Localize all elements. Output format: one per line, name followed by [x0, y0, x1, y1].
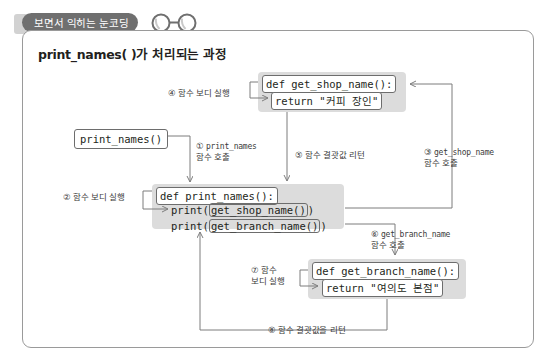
step-label-7: ⑦ 함수 보디 실행 [251, 265, 285, 287]
step-label-6: ⑥ get_branch_name 함수 호출 [371, 229, 450, 251]
step-label-8: ⑧ 함수 결괏값을 리턴 [268, 325, 345, 336]
step-label-4: ④ 함수 보디 실행 [168, 88, 230, 99]
code-print-call-2-suffix: ) [320, 220, 326, 232]
step-3-text: 함수 호출 [424, 158, 458, 168]
step-label-1: ① print_names 함수 호출 [196, 141, 257, 163]
step-6-marker: ⑥ [371, 229, 378, 239]
code-print-call-2-inner: get_branch_name() [209, 219, 320, 233]
code-get-shop-name-return: return "커피 장인" [271, 92, 382, 110]
step-7-text-line1: 함수 [261, 265, 277, 275]
step-6-text: 함수 호출 [371, 240, 405, 250]
code-get-branch-name-return-text: return "여의도 본점" [326, 282, 439, 294]
step-3-mono: get_shop_name [434, 148, 494, 157]
code-print-call-2-prefix: print( [171, 220, 209, 232]
step-label-5: ⑤ 함수 결괏값 리턴 [295, 150, 365, 161]
diagram-page: 보면서 익히는 눈코딩 print_names( )가 처리되는 과정 [0, 0, 556, 363]
code-print-call-1-inner: get_shop_name() [209, 203, 308, 217]
code-get-branch-name-return: return "여의도 본점" [322, 279, 443, 297]
step-4-text: 함수 보디 실행 [178, 88, 230, 98]
step-1-mono: print_names [206, 142, 257, 151]
step-6-mono: get_branch_name [381, 230, 450, 239]
step-5-text: 함수 결괏값 리턴 [305, 150, 365, 160]
code-print-names-def-text: def print_names(): [160, 190, 274, 202]
code-get-branch-name-def-text: def get_branch_name(): [316, 265, 455, 277]
step-8-marker: ⑧ [268, 325, 275, 335]
step-2-text: 함수 보디 실행 [73, 192, 125, 202]
code-get-shop-name-def: def get_shop_name(): [262, 75, 396, 93]
step-8-text: 함수 결괏값을 리턴 [278, 325, 345, 335]
step-label-3: ③ get_shop_name 함수 호출 [424, 147, 494, 169]
step-5-marker: ⑤ [295, 150, 302, 160]
code-print-call-1-suffix: ) [308, 204, 314, 216]
code-print-names-call-2: print(get_branch_name()) [171, 219, 327, 233]
step-1-text: 함수 호출 [196, 152, 230, 162]
step-1-marker: ① [196, 141, 203, 151]
step-7-text-line2: 보디 실행 [251, 276, 285, 286]
step-2-marker: ② [63, 192, 70, 202]
code-entry-call-text: print_names() [80, 133, 162, 145]
step-3-marker: ③ [424, 147, 431, 157]
code-print-call-1-prefix: print( [171, 204, 209, 216]
code-get-shop-name-return-text: return "커피 장인" [275, 95, 378, 107]
page-title: print_names( )가 처리되는 과정 [38, 44, 226, 63]
code-print-names-call-1: print(get_shop_name()) [171, 203, 314, 217]
code-get-branch-name-def: def get_branch_name(): [312, 262, 459, 280]
section-tab-label: 보면서 익히는 눈코딩 [34, 15, 128, 30]
step-7-marker: ⑦ [251, 265, 258, 275]
step-label-2: ② 함수 보디 실행 [63, 192, 125, 203]
step-4-marker: ④ [168, 88, 175, 98]
code-get-shop-name-def-text: def get_shop_name(): [266, 78, 392, 90]
code-entry-call: print_names() [74, 129, 168, 149]
